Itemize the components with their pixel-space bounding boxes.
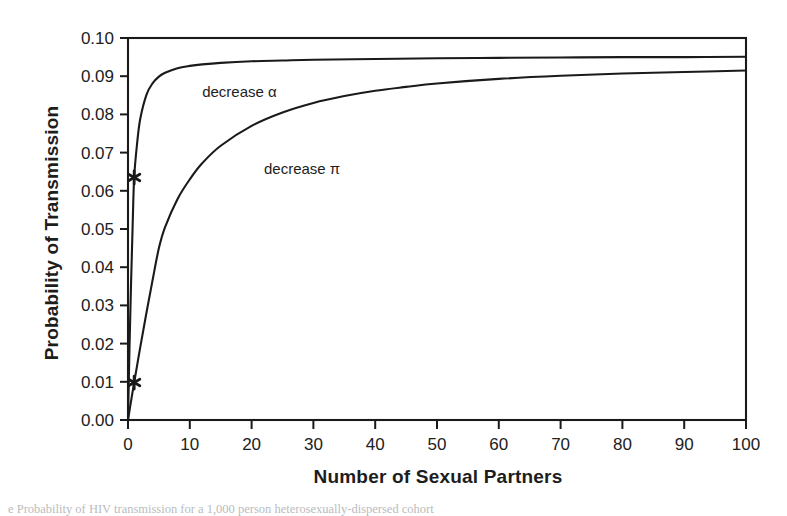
y-axis-tick-label: 0.04: [81, 258, 114, 277]
x-axis-tick-label: 30: [304, 435, 323, 454]
x-axis-tick-label: 20: [242, 435, 261, 454]
x-axis-tick-label: 50: [428, 435, 447, 454]
x-axis-tick-label: 40: [366, 435, 385, 454]
y-axis-tick-label: 0.07: [81, 144, 114, 163]
figure-container: Probability of Transmission 0.000.010.02…: [0, 0, 787, 516]
x-axis-tick-label: 60: [489, 435, 508, 454]
plot-area: 0.000.010.020.030.040.050.060.070.080.09…: [0, 0, 787, 516]
curve-label: decrease π: [264, 160, 340, 177]
y-axis-tick-label: 0.00: [81, 411, 114, 430]
y-axis-tick-label: 0.06: [81, 182, 114, 201]
x-axis-tick-label: 0: [123, 435, 132, 454]
x-axis-title: Number of Sexual Partners: [128, 466, 748, 488]
y-axis-tick-label: 0.05: [81, 220, 114, 239]
figure-caption: e Probability of HIV transmission for a …: [8, 503, 783, 516]
x-axis-tick-label: 90: [675, 435, 694, 454]
y-axis-tick-label: 0.02: [81, 335, 114, 354]
x-axis-tick-label: 100: [732, 435, 760, 454]
data-curve: [128, 57, 746, 420]
curve-label: decrease α: [202, 83, 277, 100]
data-curves-group: [128, 57, 746, 420]
x-axis-tick-label: 70: [551, 435, 570, 454]
data-point-marker: [129, 376, 140, 389]
x-axis-tick-label: 80: [613, 435, 632, 454]
y-axis-tick-label: 0.03: [81, 296, 114, 315]
y-axis-tick-label: 0.01: [81, 373, 114, 392]
data-curve: [128, 70, 746, 420]
tick-labels-group: 0.000.010.020.030.040.050.060.070.080.09…: [81, 29, 760, 454]
y-axis-tick-label: 0.09: [81, 67, 114, 86]
x-axis-tick-label: 10: [180, 435, 199, 454]
y-axis-tick-label: 0.10: [81, 29, 114, 48]
data-point-marker: [129, 171, 140, 184]
curve-annotations-group: decrease αdecrease π: [202, 83, 340, 176]
y-axis-tick-label: 0.08: [81, 105, 114, 124]
